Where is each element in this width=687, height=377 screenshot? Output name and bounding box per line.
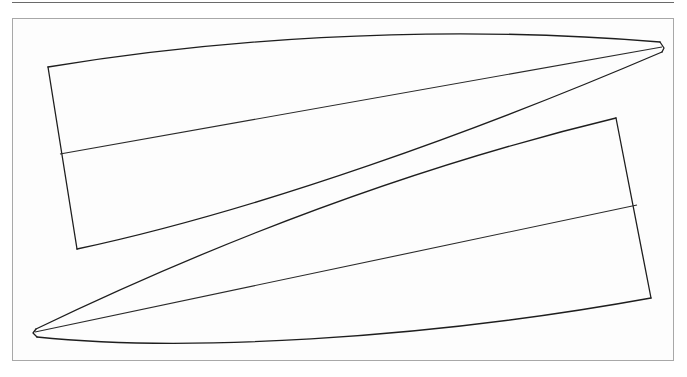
lower-panel-top-edge (36, 118, 616, 329)
lower-panel (33, 118, 651, 343)
lower-panel-centerline (35, 205, 637, 332)
upper-panel (48, 34, 664, 249)
upper-panel-bottom-edge (77, 52, 662, 249)
upper-panel-left-edge (48, 67, 77, 249)
upper-panel-top-edge (48, 34, 660, 67)
panel-drawing (0, 0, 687, 377)
lower-panel-bottom-edge (37, 298, 651, 343)
upper-panel-centerline (60, 47, 662, 154)
lower-panel-tip (33, 329, 37, 337)
